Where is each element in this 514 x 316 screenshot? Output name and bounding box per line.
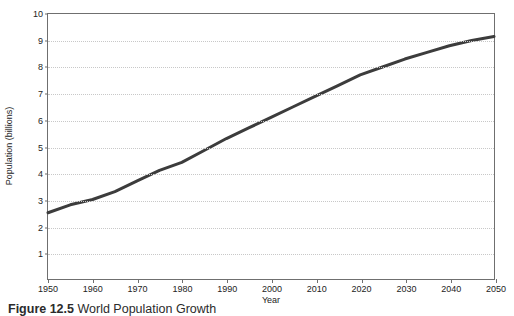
x-tick-mark — [362, 279, 363, 283]
y-tick-mark — [45, 200, 49, 201]
population-line-series — [48, 14, 494, 279]
y-gridline — [48, 201, 494, 202]
x-tick-label: 2010 — [307, 285, 327, 294]
x-tick-mark — [48, 279, 49, 283]
x-tick-mark — [451, 279, 452, 283]
y-tick-mark — [45, 174, 49, 175]
x-tick-label: 1970 — [128, 285, 148, 294]
y-tick-label: 2 — [38, 223, 43, 232]
x-tick-label: 2050 — [486, 285, 506, 294]
y-tick-label: 4 — [38, 170, 43, 179]
y-gridline — [48, 254, 494, 255]
x-tick-mark — [182, 279, 183, 283]
x-tick-mark — [138, 279, 139, 283]
y-gridline — [48, 148, 494, 149]
y-gridline — [48, 67, 494, 68]
y-gridline — [48, 174, 494, 175]
y-tick-label: 6 — [38, 116, 43, 125]
y-tick-mark — [45, 227, 49, 228]
y-tick-label: 10 — [33, 10, 43, 19]
y-tick-mark — [45, 14, 49, 15]
x-tick-label: 1960 — [83, 285, 103, 294]
x-tick-label: 1980 — [172, 285, 192, 294]
x-tick-mark — [227, 279, 228, 283]
x-tick-mark — [272, 279, 273, 283]
y-tick-label: 3 — [38, 196, 43, 205]
x-tick-label: 1950 — [38, 285, 58, 294]
x-tick-label: 2030 — [396, 285, 416, 294]
y-tick-label: 1 — [38, 250, 43, 259]
x-tick-label: 2020 — [352, 285, 372, 294]
figure-caption-text: World Population Growth — [77, 302, 216, 316]
figure-caption-label: Figure 12.5 — [8, 302, 74, 316]
y-tick-mark — [45, 120, 49, 121]
figure-caption: Figure 12.5 World Population Growth — [8, 302, 508, 316]
y-gridline — [48, 41, 494, 42]
x-tick-mark — [406, 279, 407, 283]
y-gridline — [48, 121, 494, 122]
y-gridline — [48, 94, 494, 95]
y-tick-mark — [45, 147, 49, 148]
y-tick-mark — [45, 67, 49, 68]
y-tick-label: 9 — [38, 36, 43, 45]
plot-area: 1234567891019501960197019801990200020102… — [47, 13, 495, 280]
x-tick-mark — [496, 279, 497, 283]
x-tick-label: 2040 — [441, 285, 461, 294]
x-tick-label: 1990 — [217, 285, 237, 294]
y-axis-title: Population (billions) — [5, 107, 14, 186]
y-tick-mark — [45, 94, 49, 95]
y-gridline — [48, 228, 494, 229]
y-tick-mark — [45, 254, 49, 255]
x-tick-mark — [317, 279, 318, 283]
x-tick-mark — [93, 279, 94, 283]
y-tick-label: 5 — [38, 143, 43, 152]
y-tick-mark — [45, 40, 49, 41]
x-tick-label: 2000 — [262, 285, 282, 294]
y-tick-label: 8 — [38, 63, 43, 72]
y-tick-label: 7 — [38, 90, 43, 99]
